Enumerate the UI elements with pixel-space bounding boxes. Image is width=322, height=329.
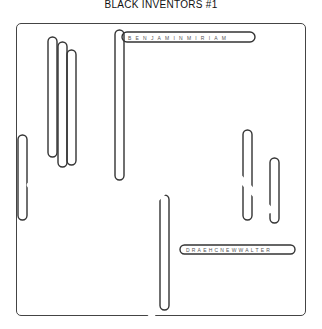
- found-word-text: BENJAMINMIRIAM: [128, 35, 230, 41]
- found-word-text: DRAEHCNEWWALTER: [186, 247, 272, 253]
- found-word-capsule[interactable]: [18, 135, 27, 220]
- found-word-capsule[interactable]: [270, 158, 279, 223]
- found-word-capsule[interactable]: [243, 130, 252, 220]
- found-word-capsule[interactable]: [48, 37, 57, 157]
- found-word-capsule[interactable]: [115, 30, 124, 180]
- found-word-capsule[interactable]: [160, 195, 169, 310]
- found-word-capsule[interactable]: [67, 50, 76, 165]
- word-highlights: BENJAMINMIRIAM DRAEHCNEWWALTER: [0, 0, 322, 329]
- found-word-capsule[interactable]: [58, 42, 67, 167]
